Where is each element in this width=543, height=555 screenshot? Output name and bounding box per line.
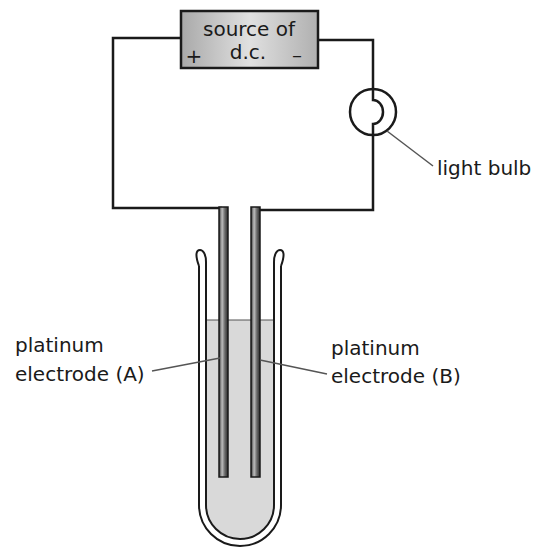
platinum-electrode-a (219, 207, 228, 477)
electrolysis-diagram: source of d.c. + – light bulb platinum e… (0, 0, 543, 555)
positive-terminal-sign: + (186, 44, 203, 68)
source-label-line2: d.c. (230, 40, 266, 64)
light-bulb-leader (387, 131, 433, 166)
electrode-a-label-line1: platinum (15, 333, 104, 357)
electrode-b-label-line1: platinum (331, 336, 420, 360)
light-bulb-icon (350, 89, 396, 135)
negative-terminal-sign: – (292, 43, 302, 67)
light-bulb-label: light bulb (437, 156, 531, 180)
dc-source: source of d.c. + – (181, 11, 318, 68)
source-label-line1: source of (203, 17, 296, 41)
platinum-electrode-b (251, 207, 260, 477)
electrode-a-label-line2: electrode (A) (15, 362, 145, 386)
electrode-b-label-line2: electrode (B) (331, 364, 461, 388)
electrolyte-liquid (206, 320, 274, 539)
